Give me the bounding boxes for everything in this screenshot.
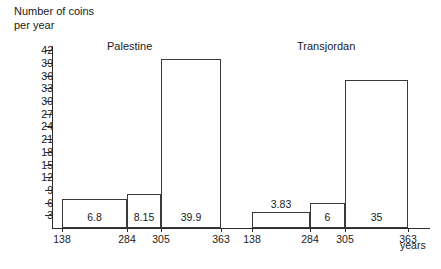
- bar-value-label: 8.15: [127, 212, 161, 223]
- y-tick-mark: [45, 190, 53, 191]
- y-tick-33: 33: [0, 88, 53, 89]
- y-tick-mark: [45, 126, 53, 127]
- y-tick-mark: [45, 101, 53, 102]
- y-tick-3: 3: [0, 215, 53, 216]
- y-tick-mark: [45, 114, 53, 115]
- bar-palestine-305-363: [161, 59, 221, 228]
- y-tick-39: 39: [0, 63, 53, 64]
- y-tick-mark: [45, 63, 53, 64]
- y-tick-21: 21: [0, 139, 53, 140]
- y-tick-36: 36: [0, 76, 53, 77]
- y-tick-42: 42: [0, 50, 53, 51]
- y-tick-18: 18: [0, 152, 53, 153]
- x-tick-mark: [310, 228, 311, 232]
- y-axis-title-line-1: Number of coins: [14, 4, 94, 18]
- x-tick-label-138: 138: [47, 234, 77, 245]
- y-tick-mark: [45, 215, 53, 216]
- group-title-palestine: Palestine: [107, 40, 152, 52]
- x-tick-mark: [252, 228, 253, 232]
- x-tick-label-284: 284: [112, 234, 142, 245]
- y-tick-mark: [45, 165, 53, 166]
- x-axis-line: [52, 228, 430, 229]
- y-tick-6: 6: [0, 203, 53, 204]
- y-tick-mark: [45, 139, 53, 140]
- x-tick-mark: [161, 228, 162, 232]
- x-tick-label-138: 138: [237, 234, 267, 245]
- x-tick-mark: [345, 228, 346, 232]
- y-tick-mark: [45, 203, 53, 204]
- y-tick-mark: [45, 152, 53, 153]
- bar-value-label: 6.8: [62, 212, 127, 223]
- bar-value-label: 6: [310, 212, 345, 223]
- x-tick-label-284: 284: [295, 234, 325, 245]
- x-tick-mark: [408, 228, 409, 232]
- bar-value-label: 39.9: [161, 212, 221, 223]
- x-tick-label-305: 305: [146, 234, 176, 245]
- y-tick-mark: [45, 76, 53, 77]
- y-tick-mark: [45, 50, 53, 51]
- y-tick-30: 30: [0, 101, 53, 102]
- bar-transjordan-138-284: [252, 212, 310, 228]
- coin-rate-bar-chart: Number of coins per year 369121518212427…: [0, 0, 441, 269]
- y-tick-24: 24: [0, 126, 53, 127]
- x-tick-mark: [221, 228, 222, 232]
- y-axis-title: Number of coins per year: [14, 4, 94, 32]
- y-tick-15: 15: [0, 165, 53, 166]
- y-tick-12: 12: [0, 177, 53, 178]
- y-tick-mark: [45, 177, 53, 178]
- y-tick-27: 27: [0, 114, 53, 115]
- y-axis-title-line-2: per year: [14, 18, 94, 32]
- bar-transjordan-305-363: [345, 80, 408, 228]
- x-axis-title: years: [400, 239, 426, 251]
- y-tick-9: 9: [0, 190, 53, 191]
- x-tick-label-363: 363: [206, 234, 236, 245]
- bar-value-label: 35: [345, 212, 408, 223]
- y-tick-mark: [45, 88, 53, 89]
- bar-value-label: 3.83: [252, 199, 310, 210]
- group-title-transjordan: Transjordan: [297, 40, 355, 52]
- x-tick-label-305: 305: [330, 234, 360, 245]
- x-tick-mark: [62, 228, 63, 232]
- x-tick-mark: [127, 228, 128, 232]
